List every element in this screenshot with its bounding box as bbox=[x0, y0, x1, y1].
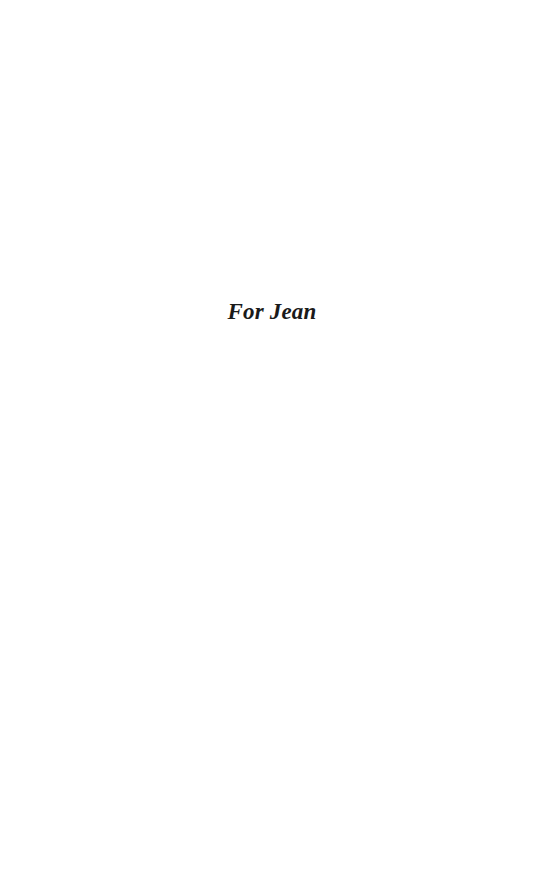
dedication-page: For Jean bbox=[0, 0, 544, 882]
dedication-text: For Jean bbox=[0, 297, 544, 327]
